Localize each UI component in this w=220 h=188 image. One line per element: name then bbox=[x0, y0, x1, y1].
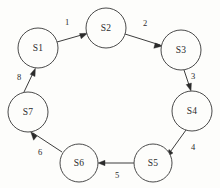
state-node-s4[interactable]: S4 bbox=[172, 91, 212, 131]
state-node-s2[interactable]: S2 bbox=[86, 8, 126, 48]
arrow-head-icon-s5-s6 bbox=[98, 160, 105, 165]
arrow-head-icon-s7-s1 bbox=[30, 68, 35, 76]
edge-label-3: 3 bbox=[191, 71, 195, 81]
edge-label-6: 6 bbox=[38, 147, 42, 157]
state-node-s7[interactable]: S7 bbox=[8, 92, 48, 132]
state-node-s5[interactable]: S5 bbox=[134, 144, 172, 182]
edge-label-8: 8 bbox=[17, 72, 21, 82]
state-label-s4: S4 bbox=[187, 106, 197, 116]
state-node-s3[interactable]: S3 bbox=[161, 30, 201, 70]
edge-s6-s7 bbox=[31, 131, 63, 152]
state-label-s7: S7 bbox=[23, 107, 33, 117]
edge-s5-s6 bbox=[98, 160, 134, 165]
edge-label-1: 1 bbox=[65, 17, 69, 27]
edge-label-5: 5 bbox=[115, 170, 119, 180]
edge-label-2: 2 bbox=[143, 18, 147, 28]
edge-label-4: 4 bbox=[191, 142, 196, 152]
arrow-head-icon-s6-s7 bbox=[31, 131, 38, 140]
state-node-s1[interactable]: S1 bbox=[18, 28, 58, 68]
arrow-head-icon-s1-s2 bbox=[80, 33, 88, 39]
arrow-head-icon-s3-s4 bbox=[186, 83, 191, 91]
edge-s7-s1 bbox=[24, 68, 35, 92]
edge-s2-s3 bbox=[125, 34, 163, 48]
state-label-s6: S6 bbox=[74, 158, 84, 168]
state-label-s3: S3 bbox=[176, 45, 186, 55]
state-node-s6[interactable]: S6 bbox=[60, 144, 98, 182]
state-label-s1: S1 bbox=[33, 43, 43, 53]
edge-s1-s2 bbox=[57, 33, 88, 42]
state-transition-diagram: 1 2 3 4 5 6 8 S1 S2 S3 S4 bbox=[0, 0, 220, 188]
state-label-s5: S5 bbox=[148, 158, 158, 168]
state-diagram-canvas: 1 2 3 4 5 6 8 S1 S2 S3 S4 bbox=[0, 0, 220, 188]
state-label-s2: S2 bbox=[101, 23, 111, 33]
edge-line-s2-s3 bbox=[125, 34, 160, 45]
